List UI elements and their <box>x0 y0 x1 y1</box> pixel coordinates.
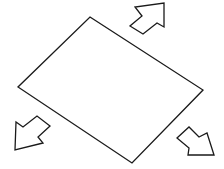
arrow-down-left-icon <box>15 116 50 150</box>
diagram-canvas <box>0 0 224 169</box>
rotated-rectangle <box>18 17 203 163</box>
arrow-up-right-icon <box>130 3 164 34</box>
arrow-down-right-icon <box>177 127 214 155</box>
